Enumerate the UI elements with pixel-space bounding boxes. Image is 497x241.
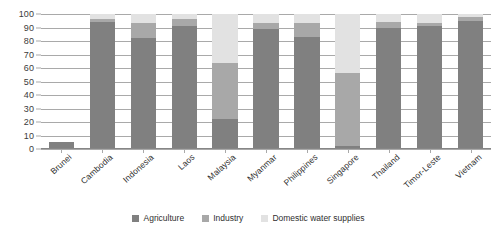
bar-group[interactable] bbox=[376, 14, 401, 149]
x-axis-labels: BruneiCambodiaIndonesiaLaosMalaysiaMyanm… bbox=[41, 150, 491, 205]
bar-segment[interactable] bbox=[294, 37, 319, 149]
legend-swatch-domestic-water-supplies bbox=[261, 215, 268, 222]
bar-segment[interactable] bbox=[172, 14, 197, 19]
bar-segment[interactable] bbox=[131, 38, 156, 149]
x-axis-category-label: Indonesia bbox=[121, 152, 156, 185]
x-axis-tick bbox=[184, 150, 185, 153]
bar-segment[interactable] bbox=[253, 23, 278, 28]
x-axis-category-label: Laos bbox=[176, 152, 197, 172]
x-axis-tick bbox=[389, 150, 390, 153]
x-axis-tick bbox=[307, 150, 308, 153]
y-axis-tick-label: 90 bbox=[24, 23, 34, 33]
legend-swatch-industry bbox=[202, 215, 209, 222]
x-axis-tick bbox=[225, 150, 226, 153]
plot-area bbox=[41, 14, 491, 149]
bar-group[interactable] bbox=[212, 14, 237, 149]
x-axis-category-label: Timor-Leste bbox=[401, 152, 442, 190]
bar-segment[interactable] bbox=[376, 14, 401, 22]
legend-item[interactable]: Domestic water supplies bbox=[261, 213, 364, 223]
bar-segment[interactable] bbox=[417, 14, 442, 23]
bar-segment[interactable] bbox=[172, 19, 197, 26]
bar-group[interactable] bbox=[335, 14, 360, 149]
x-axis-category-label: Vietnam bbox=[453, 152, 483, 181]
y-axis-tick-label: 0 bbox=[29, 144, 34, 154]
y-axis-tick-label: 60 bbox=[24, 63, 34, 73]
bar-segment[interactable] bbox=[212, 119, 237, 149]
y-axis-tick-label: 80 bbox=[24, 36, 34, 46]
legend-label: Industry bbox=[213, 213, 243, 223]
x-axis-tick bbox=[348, 150, 349, 153]
bar-group[interactable] bbox=[294, 14, 319, 149]
bar-group[interactable] bbox=[90, 14, 115, 149]
bar-segment[interactable] bbox=[417, 23, 442, 26]
bar-segment[interactable] bbox=[212, 14, 237, 63]
bar-segment[interactable] bbox=[335, 14, 360, 73]
bar-series-container bbox=[41, 14, 491, 149]
legend-item[interactable]: Agriculture bbox=[132, 213, 184, 223]
x-axis-category-label: Cambodia bbox=[79, 152, 115, 186]
legend-item[interactable]: Industry bbox=[202, 213, 243, 223]
bar-segment[interactable] bbox=[253, 29, 278, 149]
y-axis-tick-label: 30 bbox=[24, 104, 34, 114]
legend-label: Agriculture bbox=[143, 213, 184, 223]
bar-segment[interactable] bbox=[294, 14, 319, 23]
bar-segment[interactable] bbox=[458, 17, 483, 21]
bar-segment[interactable] bbox=[417, 26, 442, 149]
y-axis-tick-label: 100 bbox=[19, 9, 34, 19]
bar-segment[interactable] bbox=[253, 14, 278, 23]
bar-segment[interactable] bbox=[90, 22, 115, 149]
bar-segment[interactable] bbox=[131, 14, 156, 23]
bar-segment[interactable] bbox=[458, 21, 483, 149]
x-axis-tick bbox=[143, 150, 144, 153]
bar-group[interactable] bbox=[458, 14, 483, 149]
y-axis-tick-label: 10 bbox=[24, 131, 34, 141]
bar-group[interactable] bbox=[417, 14, 442, 149]
x-axis-line bbox=[41, 148, 491, 149]
y-axis-tick-label: 50 bbox=[24, 77, 34, 87]
bar-segment[interactable] bbox=[376, 22, 401, 27]
x-axis-tick bbox=[102, 150, 103, 153]
y-axis-tick-label: 70 bbox=[24, 50, 34, 60]
x-axis-tick bbox=[266, 150, 267, 153]
stacked-bar-chart: 0102030405060708090100 BruneiCambodiaInd… bbox=[0, 0, 497, 241]
x-axis-tick bbox=[430, 150, 431, 153]
legend-label: Domestic water supplies bbox=[272, 213, 364, 223]
bar-group[interactable] bbox=[131, 14, 156, 149]
legend-swatch-agriculture bbox=[132, 215, 139, 222]
x-axis-tick bbox=[61, 150, 62, 153]
x-axis-tick bbox=[471, 150, 472, 153]
x-axis-category-label: Brunei bbox=[49, 152, 74, 176]
x-axis-category-label: Myanmar bbox=[245, 152, 279, 184]
y-axis-tick-label: 40 bbox=[24, 90, 34, 100]
bar-segment[interactable] bbox=[172, 26, 197, 149]
x-axis-category-label: Thailand bbox=[370, 152, 402, 182]
bar-segment[interactable] bbox=[376, 28, 401, 150]
chart-legend: AgricultureIndustryDomestic water suppli… bbox=[0, 210, 497, 226]
bar-group[interactable] bbox=[253, 14, 278, 149]
bar-segment[interactable] bbox=[90, 19, 115, 22]
bar-segment[interactable] bbox=[458, 14, 483, 17]
bar-segment[interactable] bbox=[131, 23, 156, 38]
bar-segment[interactable] bbox=[212, 63, 237, 120]
bar-group[interactable] bbox=[172, 14, 197, 149]
bar-group[interactable] bbox=[49, 14, 74, 149]
y-axis-tick-label: 20 bbox=[24, 117, 34, 127]
x-axis-category-label: Philippines bbox=[282, 152, 320, 188]
x-axis-category-label: Malaysia bbox=[206, 152, 238, 182]
x-axis-category-label: Singapore bbox=[324, 152, 360, 186]
bar-segment[interactable] bbox=[335, 73, 360, 146]
bar-segment[interactable] bbox=[294, 23, 319, 37]
y-axis: 0102030405060708090100 bbox=[0, 14, 41, 149]
bar-segment[interactable] bbox=[90, 14, 115, 19]
